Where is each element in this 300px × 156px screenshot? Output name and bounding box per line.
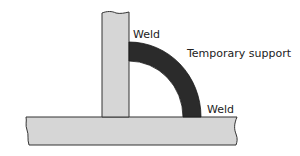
weld-diagram — [0, 0, 300, 156]
weld-bottom-label: Weld — [207, 104, 234, 115]
temporary-support-label: Temporary support — [187, 48, 291, 59]
weld-top-label: Weld — [133, 29, 160, 40]
vertical-plate — [102, 12, 129, 118]
base-plate — [26, 117, 237, 145]
